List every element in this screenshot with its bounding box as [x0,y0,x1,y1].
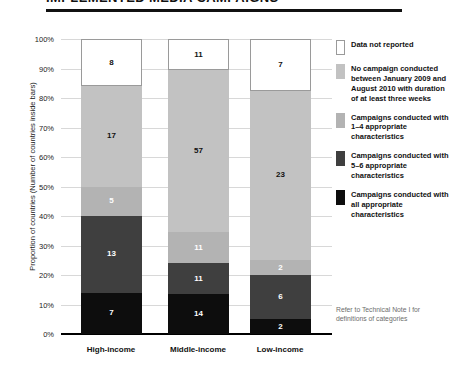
bar-segment[interactable]: 14 [168,294,229,334]
y-axis-tick-label: 80% [14,94,54,103]
legend-item[interactable]: Data not reported [336,40,452,55]
title-divider [46,9,402,12]
bar-segment[interactable]: 2 [250,260,311,275]
stacked-bar[interactable]: 1411115711 [168,39,229,334]
bar-segment[interactable]: 11 [168,263,229,294]
chart-legend: Data not reportedNo campaign conducted b… [336,40,452,229]
technical-note: Refer to Technical Note I for definition… [336,305,452,323]
y-axis-tick-label: 90% [14,64,54,73]
bar-segment-value: 7 [278,61,282,69]
y-axis-tick-labels: 100%90%80%70%60%50%40%30%20%10%0% [14,39,54,334]
y-axis-tick-label: 40% [14,212,54,221]
stacked-bar[interactable]: 7135178 [81,39,142,334]
bar-segment[interactable]: 23 [250,91,311,261]
x-axis-tick-label: Low-income [230,345,330,354]
bar-segment[interactable]: 6 [250,275,311,319]
bar-segment-value: 17 [107,132,116,140]
legend-item-label: Campaigns conducted with 1–4 appropriate… [351,113,452,143]
bar-segment-value: 23 [276,171,285,179]
chart-title-strip: IMPLEMENTED MEDIA CAMPAIGNS [0,0,454,9]
bar-segment-value: 14 [194,310,203,318]
y-axis-tick-label: 0% [14,330,54,339]
legend-item[interactable]: No campaign conducted between January 20… [336,64,452,104]
legend-item[interactable]: Campaigns conducted with 1–4 appropriate… [336,113,452,143]
bar-segment[interactable]: 7 [250,39,311,91]
bar-segment[interactable]: 8 [81,39,142,86]
legend-swatch [336,113,345,128]
bar-segment[interactable]: 57 [168,70,229,232]
bar-segment[interactable]: 13 [81,216,142,293]
bar-segment[interactable]: 11 [168,232,229,263]
y-axis-tick-label: 50% [14,182,54,191]
bar-segment[interactable]: 5 [81,187,142,217]
plot-area: 71351781411115711262237 [61,39,332,334]
legend-item-label: Campaigns conducted with 5–6 appropriate… [351,151,452,181]
legend-item-label: Campaigns conducted with all appropriate… [351,190,452,220]
y-axis-tick-label: 30% [14,241,54,250]
bar-segment-value: 13 [107,250,116,258]
bar-segment-value: 57 [194,147,203,155]
bar-segment[interactable]: 2 [250,319,311,334]
legend-swatch [336,64,345,79]
bar-segment-value: 8 [109,59,113,67]
y-axis-tick-label: 10% [14,300,54,309]
bar-segment-value: 7 [109,309,113,317]
bar-segment[interactable]: 11 [168,39,229,70]
bar-segment[interactable]: 7 [81,293,142,334]
legend-item-label: Data not reported [351,40,414,50]
legend-swatch [336,151,345,166]
legend-item-label: No campaign conducted between January 20… [351,64,452,104]
legend-swatch [336,190,345,205]
legend-swatch [336,40,345,55]
bar-segment-value: 2 [278,323,282,331]
y-axis-tick-label: 70% [14,123,54,132]
y-axis-tick-label: 20% [14,271,54,280]
y-axis-tick-label: 60% [14,153,54,162]
y-axis-tick-label: 100% [14,35,54,44]
bar-segment-value: 11 [194,244,202,252]
bar-segment-value: 11 [194,51,202,59]
bar-segment-value: 11 [194,275,202,283]
x-axis-tick-label: High-income [61,345,161,354]
legend-item[interactable]: Campaigns conducted with 5–6 appropriate… [336,151,452,181]
page-title: IMPLEMENTED MEDIA CAMPAIGNS [46,0,279,5]
bar-segment-value: 5 [109,197,113,205]
bar-segment-value: 2 [278,264,282,272]
legend-item[interactable]: Campaigns conducted with all appropriate… [336,190,452,220]
bar-segment-value: 6 [278,293,282,301]
bar-segment[interactable]: 17 [81,86,142,186]
stacked-bar[interactable]: 262237 [250,39,311,334]
